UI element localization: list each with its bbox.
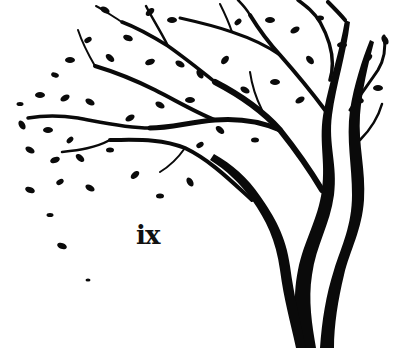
trunk-main [295,20,350,348]
page-number-label: ix [136,222,159,248]
tree-silhouette-illustration [0,0,406,348]
leaves [17,5,391,282]
trunk-left [210,154,306,348]
